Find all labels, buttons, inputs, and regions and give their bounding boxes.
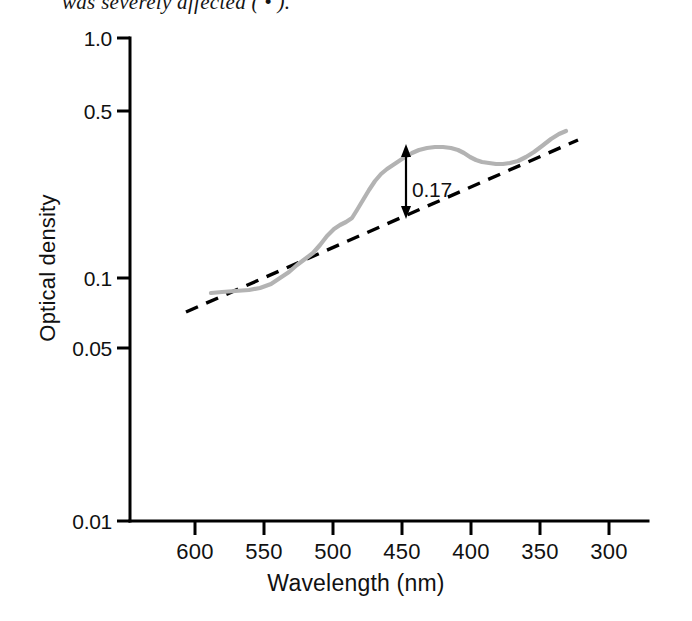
x-tick-label-1: 600 — [155, 539, 235, 565]
y-tick-label-5: 0.01 — [26, 510, 112, 534]
delta-arrow-annotation — [401, 144, 411, 219]
x-axis-title: Wavelength (nm) — [196, 570, 516, 597]
delta-value-label: 0.17 — [412, 178, 452, 202]
y-axis-ticks — [117, 38, 130, 521]
absorbance-spectrum-series — [211, 131, 566, 293]
x-tick-label-2: 550 — [224, 539, 304, 565]
y-axis-title: Optical density — [35, 178, 61, 358]
y-tick-label-1: 1.0 — [36, 27, 112, 51]
x-tick-label-6: 350 — [500, 539, 580, 565]
x-tick-label-3: 500 — [293, 539, 373, 565]
y-tick-label-2: 0.5 — [36, 100, 112, 124]
x-tick-label-4: 450 — [362, 539, 442, 565]
spectrum-figure: 1.0 0.5 0.1 0.05 0.01 600 550 500 450 40… — [0, 0, 692, 621]
linear-baseline-series — [186, 140, 578, 312]
x-axis-ticks — [195, 521, 609, 535]
x-tick-label-7: 300 — [569, 539, 649, 565]
x-tick-label-5: 400 — [431, 539, 511, 565]
